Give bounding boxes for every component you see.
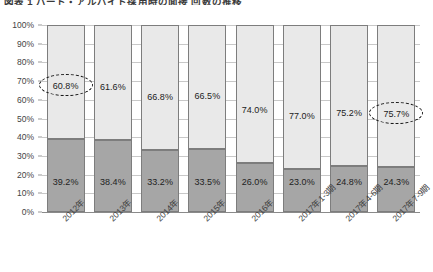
bar-column[interactable]: 24.3%75.7%: [377, 25, 415, 212]
x-axis-label-slot: 2012年: [47, 213, 85, 271]
bar-segment-upper[interactable]: 60.8%: [47, 25, 85, 139]
x-axis-label-slot: 2015年: [188, 213, 226, 271]
bar-value-label: 33.2%: [147, 178, 173, 187]
y-axis-tick-label: 60%: [0, 96, 34, 105]
y-axis-tick-label: 70%: [0, 77, 34, 86]
y-axis-tick-label: 90%: [0, 39, 34, 48]
chart-title: 図表 1 パート・アルバイト採用時の面接 回数の推移: [4, 0, 304, 5]
bar-value-label: 24.8%: [336, 178, 362, 187]
bar-value-label: 75.7%: [384, 110, 410, 119]
y-axis-tick-label: 0%: [0, 208, 34, 217]
bar-value-label: 61.6%: [100, 83, 126, 92]
bar-value-label: 75.2%: [336, 109, 362, 118]
bar-value-label: 33.5%: [195, 178, 221, 187]
bar-value-label: 74.0%: [242, 106, 268, 115]
y-axis-tick-label: 30%: [0, 152, 34, 161]
x-axis-label-slot: 2017年1-3期: [283, 213, 321, 271]
plot-area: 39.2%60.8%38.4%61.6%33.2%66.8%33.5%66.5%…: [42, 25, 420, 212]
bar-segment-upper[interactable]: 74.0%: [236, 25, 274, 163]
x-axis-label-slot: 2013年: [94, 213, 132, 271]
bar-segment-upper[interactable]: 75.2%: [330, 25, 368, 166]
bar-value-label: 39.2%: [53, 178, 79, 187]
bar-column[interactable]: 24.8%75.2%: [330, 25, 368, 212]
y-axis-tick-label: 50%: [0, 114, 34, 123]
y-axis-tick-label: 40%: [0, 133, 34, 142]
x-axis: 2012年2013年2014年2015年2016年2017年1-3期2017年4…: [42, 213, 420, 272]
bar-value-label: 77.0%: [289, 112, 315, 121]
y-axis-tick-label: 20%: [0, 170, 34, 179]
bar-value-label: 38.4%: [100, 178, 126, 187]
bar-column[interactable]: 26.0%74.0%: [236, 25, 274, 212]
bar-column[interactable]: 39.2%60.8%: [47, 25, 85, 212]
bar-segment-upper[interactable]: 66.5%: [188, 25, 226, 149]
bar-value-label: 26.0%: [242, 178, 268, 187]
bar-segment-upper[interactable]: 66.8%: [141, 25, 179, 150]
x-axis-label-slot: 2017年7-9期: [377, 213, 415, 271]
y-axis: 0%10%20%30%40%50%60%70%80%90%100%: [0, 25, 38, 212]
x-axis-label-slot: 2017年4-6期: [330, 213, 368, 271]
bar-column[interactable]: 33.2%66.8%: [141, 25, 179, 212]
y-axis-tick-label: 10%: [0, 189, 34, 198]
bar-value-label: 24.3%: [384, 178, 410, 187]
y-axis-tick-label: 80%: [0, 58, 34, 67]
bar-value-label: 66.8%: [147, 93, 173, 102]
x-axis-label-slot: 2016年: [236, 213, 274, 271]
bar-segment-upper[interactable]: 61.6%: [94, 25, 132, 140]
bar-column[interactable]: 23.0%77.0%: [283, 25, 321, 212]
bar-value-label: 23.0%: [289, 178, 315, 187]
bar-segment-upper[interactable]: 77.0%: [283, 25, 321, 169]
bar-column[interactable]: 38.4%61.6%: [94, 25, 132, 212]
bar-value-label: 60.8%: [53, 82, 79, 91]
y-axis-tick-label: 100%: [0, 21, 34, 30]
bar-segment-upper[interactable]: 75.7%: [377, 25, 415, 167]
x-axis-label-slot: 2014年: [141, 213, 179, 271]
bar-value-label: 66.5%: [195, 92, 221, 101]
bar-column[interactable]: 33.5%66.5%: [188, 25, 226, 212]
